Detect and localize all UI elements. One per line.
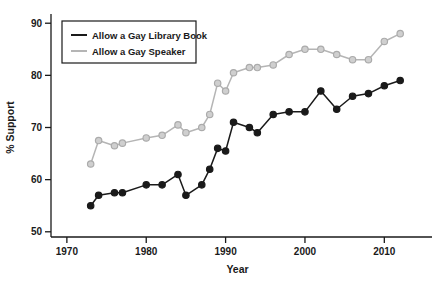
chart-legend: Allow a Gay Library BookAllow a Gay Spea…: [62, 21, 208, 63]
y-tick-label: 80: [31, 70, 43, 81]
data-point-gay-library-book: [175, 171, 181, 177]
data-point-gay-speaker: [302, 46, 308, 52]
x-tick-label: 2000: [294, 246, 317, 257]
y-tick-label: 60: [31, 174, 43, 185]
data-point-gay-speaker: [87, 161, 93, 167]
data-point-gay-speaker: [254, 64, 260, 70]
data-point-gay-speaker: [397, 30, 403, 36]
data-point-gay-speaker: [318, 46, 324, 52]
data-point-gay-speaker: [175, 122, 181, 128]
data-point-gay-library-book: [111, 189, 117, 195]
data-point-gay-library-book: [207, 166, 213, 172]
data-point-gay-speaker: [230, 70, 236, 76]
data-point-gay-library-book: [199, 182, 205, 188]
data-point-gay-library-book: [302, 109, 308, 115]
data-point-gay-speaker: [207, 111, 213, 117]
x-tick-label: 2010: [373, 246, 396, 257]
data-point-gay-library-book: [286, 109, 292, 115]
legend-border: [62, 21, 196, 63]
data-point-gay-speaker: [214, 80, 220, 86]
data-point-gay-speaker: [199, 124, 205, 130]
data-point-gay-library-book: [230, 119, 236, 125]
data-point-gay-speaker: [222, 88, 228, 94]
x-tick-label: 1980: [135, 246, 158, 257]
data-point-gay-speaker: [159, 132, 165, 138]
y-tick-label: 90: [31, 18, 43, 29]
data-point-gay-library-book: [95, 192, 101, 198]
data-point-gay-speaker: [349, 57, 355, 63]
y-tick-label: 70: [31, 122, 43, 133]
x-axis-title: Year: [226, 263, 248, 275]
data-point-gay-library-book: [119, 189, 125, 195]
data-point-gay-library-book: [159, 182, 165, 188]
x-tick-label: 1990: [214, 246, 237, 257]
data-point-gay-library-book: [397, 77, 403, 83]
data-point-gay-speaker: [381, 38, 387, 44]
data-point-gay-library-book: [222, 148, 228, 154]
data-point-gay-speaker: [286, 51, 292, 57]
data-point-gay-library-book: [254, 130, 260, 136]
support-trend-line-chart: 506070809019701980199020002010 Allow a G…: [0, 0, 435, 283]
data-point-gay-library-book: [365, 90, 371, 96]
data-point-gay-speaker: [246, 64, 252, 70]
legend-label-gay-library-book: Allow a Gay Library Book: [92, 30, 208, 41]
data-point-gay-library-book: [381, 83, 387, 89]
data-point-gay-speaker: [111, 143, 117, 149]
data-point-gay-speaker: [183, 130, 189, 136]
data-point-gay-speaker: [270, 62, 276, 68]
data-point-gay-library-book: [87, 203, 93, 209]
legend-label-gay-speaker: Allow a Gay Speaker: [92, 46, 186, 57]
data-point-gay-library-book: [183, 192, 189, 198]
y-tick-label: 50: [31, 226, 43, 237]
data-point-gay-speaker: [334, 51, 340, 57]
chart-container: 506070809019701980199020002010 Allow a G…: [0, 0, 435, 283]
data-point-gay-library-book: [318, 88, 324, 94]
data-point-gay-speaker: [119, 140, 125, 146]
y-axis-title: % Support: [4, 101, 16, 154]
x-tick-label: 1970: [56, 246, 79, 257]
data-point-gay-library-book: [246, 124, 252, 130]
data-point-gay-library-book: [334, 106, 340, 112]
data-point-gay-speaker: [365, 57, 371, 63]
data-point-gay-library-book: [214, 145, 220, 151]
data-point-gay-speaker: [95, 137, 101, 143]
data-point-gay-library-book: [143, 182, 149, 188]
data-point-gay-speaker: [143, 135, 149, 141]
data-point-gay-library-book: [349, 93, 355, 99]
data-point-gay-library-book: [270, 111, 276, 117]
